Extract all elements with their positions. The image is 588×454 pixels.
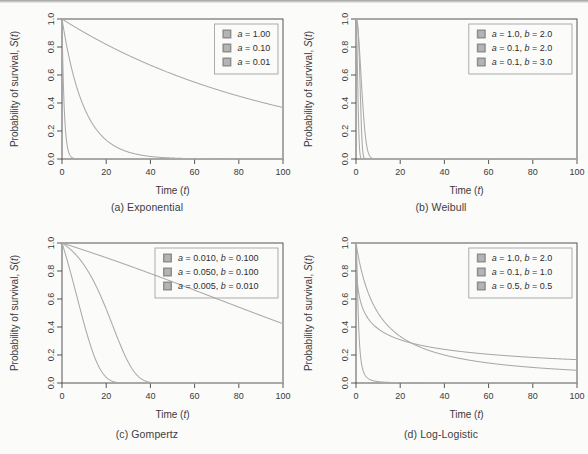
- x-axis-title: Time (t): [449, 409, 483, 420]
- legend-swatch: [478, 45, 484, 51]
- legend-label: a = 0.005, b = 0.010: [178, 281, 259, 291]
- x-tick-label: 20: [395, 167, 405, 177]
- x-tick-label: 60: [190, 391, 200, 401]
- chart-svg-gompertz: 0204060801000.00.20.40.60.81.0Time (t)Pr…: [0, 227, 294, 423]
- plot-gompertz: 0204060801000.00.20.40.60.81.0Time (t)Pr…: [0, 227, 294, 423]
- legend-label: a = 0.050, b = 0.100: [178, 267, 259, 277]
- x-axis-title: Time (t): [155, 409, 189, 420]
- y-tick-label: 0.4: [46, 321, 56, 334]
- x-axis-title: Time (t): [155, 185, 189, 196]
- y-tick-label: 0.2: [340, 349, 350, 362]
- y-tick-label: 1.0: [46, 237, 56, 250]
- x-tick-label: 40: [439, 167, 449, 177]
- y-tick-label: 0.6: [46, 293, 56, 306]
- x-tick-label: 60: [484, 167, 494, 177]
- legend-swatch: [224, 31, 230, 37]
- y-axis-title: Probability of survival, S(t): [9, 255, 20, 371]
- plot-weibull: 0204060801000.00.20.40.60.81.0Time (t)Pr…: [294, 3, 588, 199]
- curve-weibull-2: [356, 19, 577, 159]
- y-tick-label: 1.0: [340, 13, 350, 26]
- y-tick-label: 0.2: [46, 125, 56, 138]
- legend-label: a = 0.1, b = 2.0: [492, 43, 553, 53]
- chart-svg-exponential: 0204060801000.00.20.40.60.81.0Time (t)Pr…: [0, 3, 294, 199]
- chart-svg-loglogistic: 0204060801000.00.20.40.60.81.0Time (t)Pr…: [294, 227, 588, 423]
- legend-label: a = 0.1, b = 3.0: [492, 57, 553, 67]
- y-tick-label: 0.8: [340, 265, 350, 278]
- x-tick-label: 20: [101, 167, 111, 177]
- y-tick-label: 0.2: [340, 125, 350, 138]
- legend-label: a = 1.0, b = 2.0: [492, 29, 553, 39]
- x-tick-label: 60: [484, 391, 494, 401]
- legend-swatch: [165, 269, 171, 275]
- x-tick-label: 80: [528, 391, 538, 401]
- legend-swatch: [478, 59, 484, 65]
- y-tick-label: 0.0: [46, 153, 56, 166]
- y-axis-title: Probability of survival, S(t): [303, 255, 314, 371]
- legend-swatch: [224, 45, 230, 51]
- x-tick-label: 40: [439, 391, 449, 401]
- y-axis-title: Probability of survival, S(t): [9, 31, 20, 147]
- legend-swatch: [478, 31, 484, 37]
- x-tick-label: 20: [395, 391, 405, 401]
- y-tick-label: 0.4: [340, 97, 350, 110]
- legend-label: a = 0.1, b = 1.0: [492, 267, 553, 277]
- panel-gompertz: 0204060801000.00.20.40.60.81.0Time (t)Pr…: [0, 227, 294, 454]
- x-tick-label: 100: [569, 167, 584, 177]
- y-tick-label: 0.0: [340, 377, 350, 390]
- legend-swatch: [224, 59, 230, 65]
- plot-exponential: 0204060801000.00.20.40.60.81.0Time (t)Pr…: [0, 3, 294, 199]
- legend-swatch: [478, 283, 484, 289]
- plot-frame: [356, 19, 577, 159]
- y-tick-label: 0.6: [340, 69, 350, 82]
- x-tick-label: 40: [145, 167, 155, 177]
- x-tick-label: 0: [353, 167, 358, 177]
- curve-gompertz-0: [62, 243, 283, 383]
- legend-label: a = 0.01: [237, 57, 270, 67]
- legend-label: a = 1.0, b = 2.0: [492, 253, 553, 263]
- y-tick-label: 0.6: [46, 69, 56, 82]
- panel-weibull: 0204060801000.00.20.40.60.81.0Time (t)Pr…: [294, 3, 588, 227]
- curve-exponential-0: [62, 19, 283, 159]
- x-tick-label: 100: [275, 391, 290, 401]
- y-tick-label: 0.0: [46, 377, 56, 390]
- x-tick-label: 0: [59, 391, 64, 401]
- panel-caption-weibull: (b) Weibull: [294, 201, 588, 213]
- y-tick-label: 0.6: [340, 293, 350, 306]
- panel-exponential: 0204060801000.00.20.40.60.81.0Time (t)Pr…: [0, 3, 294, 227]
- x-tick-label: 100: [275, 167, 290, 177]
- legend-swatch: [478, 255, 484, 261]
- x-tick-label: 60: [190, 167, 200, 177]
- panel-loglogistic: 0204060801000.00.20.40.60.81.0Time (t)Pr…: [294, 227, 588, 454]
- y-tick-label: 0.0: [340, 153, 350, 166]
- x-tick-label: 20: [101, 391, 111, 401]
- x-tick-label: 0: [353, 391, 358, 401]
- y-tick-label: 0.2: [46, 349, 56, 362]
- legend-label: a = 0.5, b = 0.5: [492, 281, 553, 291]
- y-tick-label: 1.0: [46, 13, 56, 26]
- curve-loglogistic-0: [356, 243, 577, 383]
- panel-caption-gompertz: (c) Gompertz: [0, 428, 294, 440]
- curve-exponential-1: [62, 19, 283, 159]
- x-tick-label: 100: [569, 391, 584, 401]
- y-tick-label: 0.4: [340, 321, 350, 334]
- y-tick-label: 0.8: [46, 41, 56, 54]
- curve-weibull-0: [356, 19, 577, 159]
- x-tick-label: 80: [528, 167, 538, 177]
- legend-swatch: [165, 255, 171, 261]
- legend-label: a = 0.10: [237, 43, 270, 53]
- x-tick-label: 80: [234, 391, 244, 401]
- legend-swatch: [165, 283, 171, 289]
- y-tick-label: 0.8: [46, 265, 56, 278]
- x-axis-title: Time (t): [449, 185, 483, 196]
- y-tick-label: 0.4: [46, 97, 56, 110]
- y-tick-label: 1.0: [340, 237, 350, 250]
- plot-loglogistic: 0204060801000.00.20.40.60.81.0Time (t)Pr…: [294, 227, 588, 423]
- y-axis-title: Probability of survival, S(t): [303, 31, 314, 147]
- legend-label: a = 1.00: [237, 29, 270, 39]
- y-tick-label: 0.8: [340, 41, 350, 54]
- plot-frame: [62, 243, 283, 383]
- x-tick-label: 80: [234, 167, 244, 177]
- legend-swatch: [478, 269, 484, 275]
- panel-caption-exponential: (a) Exponential: [0, 201, 294, 213]
- survival-figure-grid: 0204060801000.00.20.40.60.81.0Time (t)Pr…: [0, 3, 588, 454]
